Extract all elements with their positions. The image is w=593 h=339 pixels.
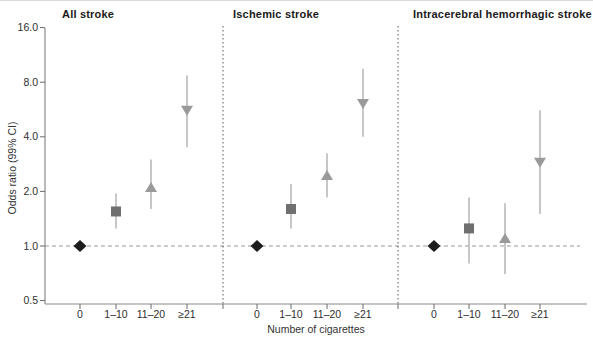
forest-plot-figure: 16.08.04.02.01.00.501–1011–20≥2101–1011–… bbox=[0, 0, 593, 339]
y-tick-label: 1.0 bbox=[23, 240, 38, 252]
x-category-label: 1–10 bbox=[279, 308, 303, 320]
square-marker bbox=[111, 206, 121, 216]
triangle-up-marker bbox=[145, 182, 157, 192]
x-category-label: ≥21 bbox=[531, 308, 549, 320]
x-category-label: 11–20 bbox=[313, 308, 342, 320]
x-category-label: 0 bbox=[431, 308, 437, 320]
x-axis-title: Number of cigarettes bbox=[45, 323, 587, 335]
x-category-label: 1–10 bbox=[457, 308, 481, 320]
diamond-marker bbox=[251, 240, 264, 252]
triangle-up-marker bbox=[321, 170, 333, 180]
triangle-up-marker bbox=[499, 233, 511, 243]
triangle-down-marker bbox=[357, 99, 369, 109]
square-marker bbox=[464, 223, 474, 233]
diamond-marker bbox=[428, 240, 441, 252]
panel-title-all-stroke: All stroke bbox=[62, 8, 114, 20]
triangle-down-marker bbox=[181, 106, 193, 116]
panel-title-ischemic-stroke: Ischemic stroke bbox=[233, 8, 319, 20]
plot-canvas: 16.08.04.02.01.00.501–1011–20≥2101–1011–… bbox=[0, 1, 593, 339]
panel-title-intracerebral-hemorrhagic-stroke: Intracerebral hemorrhagic stroke bbox=[413, 8, 592, 20]
diamond-marker bbox=[74, 240, 87, 252]
x-category-label: ≥21 bbox=[178, 308, 196, 320]
square-marker bbox=[286, 204, 296, 214]
y-tick-label: 8.0 bbox=[23, 76, 38, 88]
x-category-label: 0 bbox=[254, 308, 260, 320]
y-tick-label: 4.0 bbox=[23, 130, 38, 142]
x-category-label: 11–20 bbox=[491, 308, 520, 320]
x-category-label: ≥21 bbox=[354, 308, 372, 320]
y-tick-label: 0.5 bbox=[23, 294, 38, 306]
y-tick-label: 16.0 bbox=[18, 21, 39, 33]
triangle-down-marker bbox=[534, 158, 546, 168]
x-category-label: 0 bbox=[77, 308, 83, 320]
y-tick-label: 2.0 bbox=[23, 185, 38, 197]
x-category-label: 11–20 bbox=[137, 308, 166, 320]
x-category-label: 1–10 bbox=[104, 308, 128, 320]
y-axis-title: Odds ratio (99% CI) bbox=[6, 122, 18, 215]
